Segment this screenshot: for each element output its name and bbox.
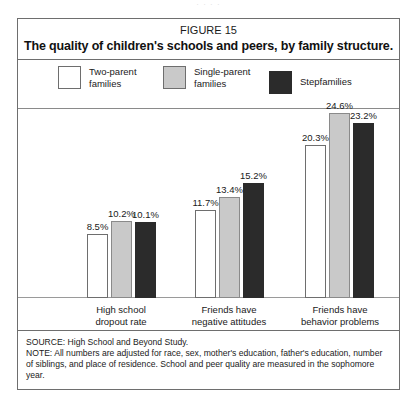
bar-two-parent-families (87, 234, 108, 298)
white-square-icon (58, 66, 81, 89)
bar-single-parent-families (111, 221, 132, 298)
bar-value-label: 10.2% (108, 208, 135, 219)
figure-title-block: FIGURE 15 The quality of children's scho… (18, 19, 399, 60)
dark-square-icon (269, 71, 292, 94)
bar-stepfamilies (353, 123, 374, 298)
bar-two-parent-families (195, 210, 216, 298)
bar-value-label: 10.1% (132, 209, 159, 220)
legend-label: Stepfamilies (300, 76, 352, 88)
methodology-note: NOTE: All numbers are adjusted for race,… (26, 348, 391, 381)
bar-value-label: 23.2% (350, 110, 377, 121)
bar-item: 24.6% (329, 113, 350, 298)
legend-item-stepfamilies: Stepfamilies (269, 71, 352, 94)
figure-footnotes: SOURCE: High School and Beyond Study. NO… (18, 331, 399, 389)
figure-number: FIGURE 15 (18, 23, 399, 37)
gray-square-icon (163, 66, 186, 89)
legend-label: Two-parent families (89, 66, 137, 89)
bar-value-label: 15.2% (240, 170, 267, 181)
bar-item: 8.5% (87, 234, 108, 298)
bar-group-friends-have-negative-attitudes: 11.7% 13.4% 15.2% (195, 183, 264, 298)
legend-label: Single-parent families (194, 66, 251, 89)
bar-item: 10.2% (111, 221, 132, 298)
bar-single-parent-families (219, 197, 240, 298)
bar-group-high-school-dropout-rate: 8.5% 10.2% 10.1% (87, 221, 156, 298)
legend-item-single-parent-families: Single-parent families (163, 66, 251, 89)
page-top-artifact: · · · · (0, 0, 417, 12)
bar-chart-plot-area: 8.5% 10.2% 10.1% 11.7% 13.4% (18, 109, 399, 331)
figure-panel: FIGURE 15 The quality of children's scho… (17, 18, 400, 390)
bar-two-parent-families (305, 145, 326, 298)
bar-stepfamilies (243, 183, 264, 298)
bar-item: 20.3% (305, 145, 326, 298)
bar-value-label: 11.7% (192, 197, 218, 208)
figure-title: The quality of children's schools and pe… (18, 37, 399, 55)
bar-single-parent-families (329, 113, 350, 298)
bar-item: 10.1% (135, 222, 156, 298)
source-note: SOURCE: High School and Beyond Study. (26, 337, 391, 348)
bar-value-label: 8.5% (87, 221, 109, 232)
bar-item: 15.2% (243, 183, 264, 298)
bar-value-label: 13.4% (216, 184, 243, 195)
legend-item-two-parent-families: Two-parent families (58, 66, 137, 89)
bar-item: 23.2% (353, 123, 374, 298)
category-label-friends-have-negative-attitudes: Friends have negative attitudes (173, 304, 285, 328)
bar-group-friends-have-behavior-problems: 20.3% 24.6% 23.2% (305, 113, 374, 298)
category-label-high-school-dropout-rate: High school dropout rate (66, 304, 176, 328)
bar-value-label: 20.3% (302, 132, 329, 143)
bar-item: 13.4% (219, 197, 240, 298)
bar-stepfamilies (135, 222, 156, 298)
category-label-friends-have-behavior-problems: Friends have behavior problems (282, 304, 398, 328)
bar-value-label: 24.6% (326, 100, 353, 111)
bar-item: 11.7% (195, 210, 216, 298)
